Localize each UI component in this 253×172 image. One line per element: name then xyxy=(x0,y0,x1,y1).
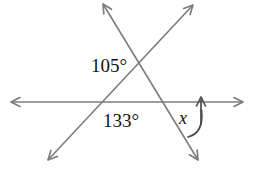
angle-label-105: 105° xyxy=(91,55,127,76)
geometry-figure: 105° 133° x xyxy=(0,0,253,172)
figure-canvas: 105° 133° x xyxy=(0,0,253,172)
rising-diagonal-line xyxy=(48,5,193,160)
falling-diagonal-line xyxy=(103,4,198,160)
angle-label-133: 133° xyxy=(103,110,139,131)
angle-arc-x xyxy=(188,110,202,137)
angle-label-x: x xyxy=(178,108,187,128)
